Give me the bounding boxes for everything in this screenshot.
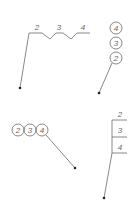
balloon-label: 2 [15,126,21,135]
leader-dot [74,167,77,170]
stack-label: 2 [117,110,123,119]
leader-line [46,135,75,168]
balloon-label: 3 [114,39,119,48]
callout-stacked-circles: 4 3 2 [98,22,122,94]
balloon-callout-diagram: 2 3 4 4 3 2 2 3 4 2 3 4 [0,0,139,209]
stack-label: 3 [118,126,123,135]
callout-horizontal-circles: 2 3 4 [12,124,76,169]
balloon-label: 4 [40,126,45,135]
leader-line [20,33,90,88]
leader-dot [19,87,22,90]
callout-label: 4 [81,23,86,32]
leader-line [104,153,112,198]
callout-label: 3 [57,23,62,32]
callout-label: 2 [34,23,40,32]
balloon-label: 4 [114,24,119,33]
callout-zigzag: 2 3 4 [19,23,90,89]
balloon-label: 3 [28,126,33,135]
leader-line [99,63,112,93]
leader-dot [98,92,101,95]
balloon-label: 2 [113,54,119,63]
leader-dot [103,197,106,200]
callout-stacked-lines: 2 3 4 [103,110,127,199]
stack-label: 4 [118,143,123,152]
